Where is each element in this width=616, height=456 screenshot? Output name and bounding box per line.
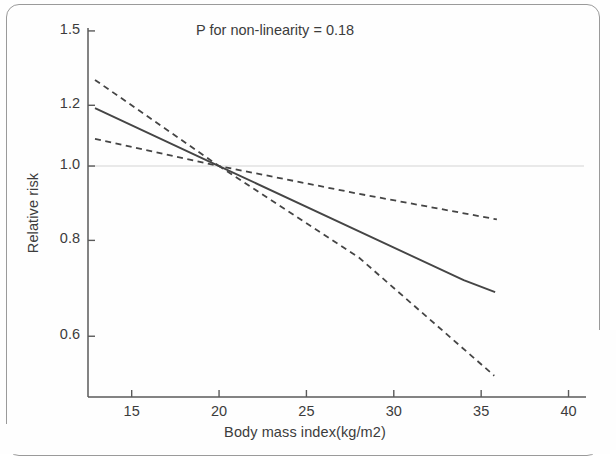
x-tick-label: 15 [110,403,154,419]
chart-axes [88,28,586,397]
chart-series [95,80,497,376]
series-line [95,108,495,292]
y-tick-label: 0.6 [36,326,80,342]
series-line [95,80,497,220]
x-tick-label: 30 [372,403,416,419]
x-tick-label: 25 [284,403,328,419]
x-tick-label: 35 [459,403,503,419]
y-tick-label: 1.5 [36,21,80,37]
non-linearity-annotation: P for non-linearity = 0.18 [196,22,354,38]
x-tick-label: 20 [197,403,241,419]
x-axis-title: Body mass index(kg/m2) [0,424,610,440]
y-tick-label: 1.0 [36,156,80,172]
y-tick-label: 1.2 [36,95,80,111]
y-tick-label: 0.8 [36,230,80,246]
chart-ticks [88,31,569,397]
series-line [95,139,494,376]
x-tick-label: 40 [547,403,591,419]
